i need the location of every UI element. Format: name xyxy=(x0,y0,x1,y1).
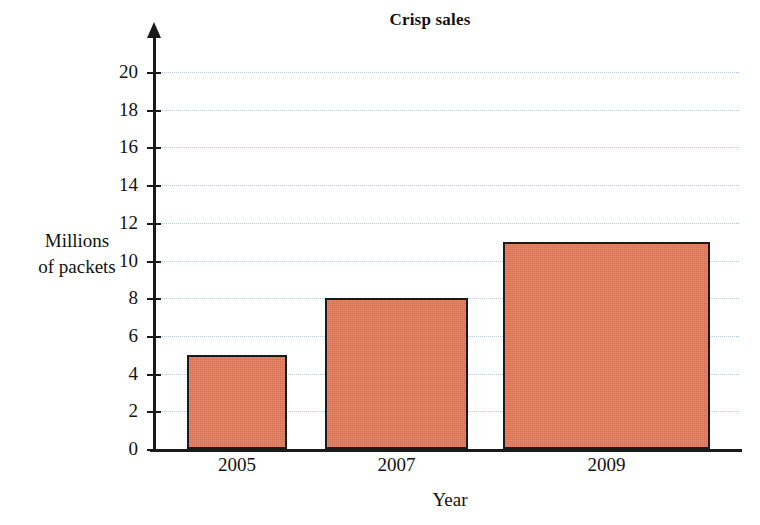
bar-chart: Crisp sales Millions of packets 02468101… xyxy=(0,0,760,525)
y-axis-tick-label: 4 xyxy=(96,364,138,383)
chart-title-text: Crisp sales xyxy=(389,10,470,30)
y-axis-line xyxy=(153,34,156,451)
y-axis-tick-label: 6 xyxy=(96,326,138,345)
y-axis-tick-label: 10 xyxy=(96,251,138,270)
x-axis-tick-label: 2007 xyxy=(325,455,468,474)
y-axis-tick-label: 2 xyxy=(96,401,138,420)
x-axis-line xyxy=(150,449,742,452)
y-axis-tick-label: 20 xyxy=(96,62,138,81)
chart-title: Crisp sales xyxy=(0,10,760,30)
gridline xyxy=(156,223,739,224)
x-axis-title: Year xyxy=(350,489,550,511)
bar xyxy=(325,298,468,449)
y-axis-arrow-icon xyxy=(147,22,161,38)
bar xyxy=(187,355,287,449)
y-axis-tick-label: 0 xyxy=(96,439,138,458)
gridline xyxy=(156,110,739,111)
x-axis-tick-label: 2009 xyxy=(503,455,710,474)
gridline xyxy=(156,72,739,73)
y-axis-tick-label: 18 xyxy=(96,100,138,119)
y-axis-tick-label: 14 xyxy=(96,175,138,194)
y-axis-tick-label: 16 xyxy=(96,137,138,156)
y-axis-tick-label: 12 xyxy=(96,213,138,232)
x-axis-tick-label: 2005 xyxy=(187,455,287,474)
bar xyxy=(503,242,710,449)
gridline xyxy=(156,147,739,148)
gridline xyxy=(156,185,739,186)
y-axis-tick-label: 8 xyxy=(96,288,138,307)
